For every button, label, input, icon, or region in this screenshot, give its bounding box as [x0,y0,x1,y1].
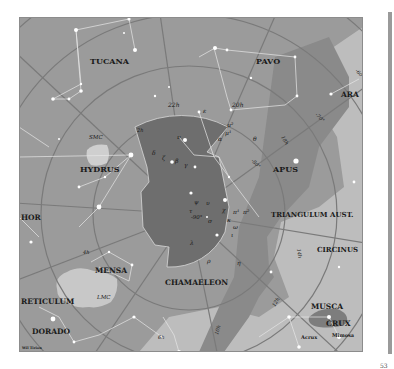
greek-label: α [218,135,222,142]
label-musca: MUSCA [311,302,343,311]
greek-label: χ [221,206,226,214]
grid-label-6h: 6h [158,334,164,340]
label-acrux: Acrux [300,334,318,340]
greek-label: ρ [206,257,211,265]
greek-label: κ [226,216,231,223]
page-edge-bar [388,12,392,354]
label-circinus: CIRCINUS [317,245,358,254]
label-tucana: TUCANA [90,56,130,66]
center-label: -90° [191,214,203,220]
credit-text: Wil Tirion [21,346,42,350]
label-smc: SMC [89,134,103,140]
label-hor: HOR [21,213,42,222]
greek-label: η [237,259,241,267]
greek-label: π² [242,208,250,215]
grid-label-2h: 2h [136,127,143,133]
grid-label-4h: 4h [82,249,89,255]
greek-label: ν [177,133,181,140]
greek-label: π¹ [232,208,239,215]
greek-label: λ [189,239,194,246]
greek-label: υ [206,199,210,206]
label-ara: ARA [340,90,359,99]
label-pavo: PAVO [256,56,280,66]
greek-label: μ² [227,121,234,129]
label-triangulum-aust: TRIANGULUM AUST. [271,210,353,219]
greek-label: δ [152,149,156,156]
label-mensa: MENSA [95,266,127,275]
greek-label: ψ [194,198,199,206]
greek-label: ι [231,231,233,238]
grid-label-20h: 20h [231,101,244,108]
label-chamaeleon: CHAMAELEON [165,278,228,287]
greek-label: μ¹ [225,129,231,137]
grid-label-22h: 22h [167,101,180,108]
label-apus: APUS [272,164,298,174]
label-dorado: DORADO [32,327,71,336]
label-reticulum: RETICULUM [21,297,74,306]
star-chart: TUCANA PAVO ARA HYDRUS APUS HOR TRIANGUL… [19,17,363,352]
label-lmc: LMC [96,294,111,300]
greek-label: ω [233,223,238,230]
page-number: 53 [380,362,388,369]
greek-label: β [174,157,179,165]
greek-label: θ [253,135,257,142]
greek-label: γ [184,161,188,169]
label-mimosa: Mimosa [332,332,355,338]
greek-label: ε [203,107,206,114]
label-crux: CRUX [326,319,351,328]
label-hydrus: HYDRUS [80,164,120,174]
